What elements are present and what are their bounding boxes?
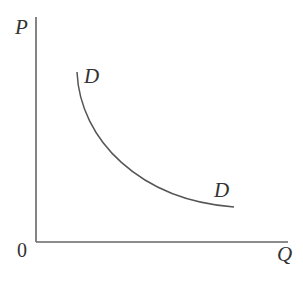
curve-label-bottom: D xyxy=(213,178,229,202)
curve-label-top: D xyxy=(83,64,99,88)
demand-diagram: P 0 Q D D xyxy=(0,0,303,292)
y-axis-label: P xyxy=(14,15,28,39)
x-axis-label: Q xyxy=(277,242,292,266)
demand-curve xyxy=(77,72,234,207)
origin-label: 0 xyxy=(17,239,27,261)
